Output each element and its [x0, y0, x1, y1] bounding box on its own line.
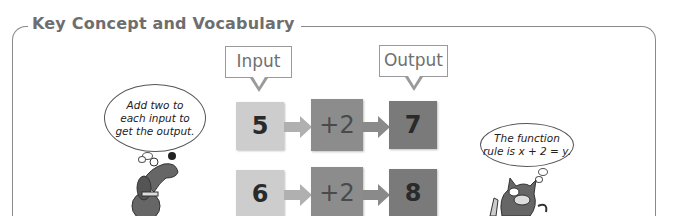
arrow-icon [362, 116, 390, 138]
thought-puff-icon [538, 168, 548, 176]
input-box-1: 5 [236, 102, 284, 150]
dog-thought-bubble: Add two to each input to get the output. [104, 84, 206, 152]
input-value-2: 6 [252, 180, 269, 208]
cat-bubble-line-2: rule is x + 2 = y. [483, 145, 571, 158]
arrow-icon [284, 184, 312, 206]
rule-value-2: +2 [319, 179, 354, 207]
output-box-1: 7 [389, 101, 437, 149]
output-value-2: 8 [405, 179, 422, 207]
output-value-1: 7 [405, 111, 422, 139]
cat-bubble-line-1: The function [483, 132, 571, 145]
input-box-2: 6 [236, 170, 284, 216]
arrow-icon [284, 116, 312, 138]
rule-box-1: +2 [311, 99, 363, 151]
input-callout-arrow-icon [250, 78, 268, 92]
dog-bubble-line-1: Add two to [115, 99, 194, 112]
arrow-icon [362, 184, 390, 206]
dog-bubble-line-2: each input to [115, 112, 194, 125]
cat-icon [484, 176, 554, 216]
output-callout-arrow-icon [405, 77, 423, 91]
rule-box-2: +2 [311, 167, 363, 216]
input-label: Input [236, 51, 280, 71]
dog-bubble-line-3: get the output. [115, 125, 194, 138]
output-box-2: 8 [389, 169, 437, 216]
output-label: Output [384, 50, 443, 70]
input-callout: Input [225, 46, 292, 78]
section-heading: Key Concept and Vocabulary [28, 14, 301, 33]
input-value-1: 5 [252, 112, 269, 140]
cat-thought-bubble: The function rule is x + 2 = y. [480, 123, 574, 167]
rule-value-1: +2 [319, 111, 354, 139]
output-callout: Output [379, 45, 448, 77]
dog-icon [120, 148, 190, 216]
